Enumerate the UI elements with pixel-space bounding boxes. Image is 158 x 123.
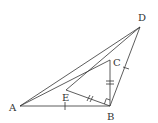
segment-eb (66, 90, 110, 106)
geometry-diagram: A B C D E (0, 0, 158, 123)
label-c: C (113, 57, 121, 68)
segment-ad (20, 27, 140, 106)
label-a: A (8, 102, 17, 113)
right-angle-mark (104, 99, 110, 104)
segment-ed (66, 27, 140, 90)
label-d: D (138, 12, 146, 23)
label-e: E (62, 92, 69, 103)
label-b: B (107, 111, 114, 122)
